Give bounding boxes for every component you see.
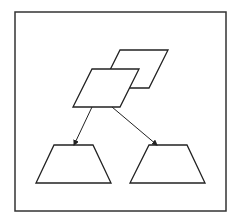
trapezoid-right — [130, 145, 205, 183]
arrow-to-right — [112, 107, 157, 145]
diagram-canvas — [0, 0, 235, 222]
trapezoid-left — [36, 145, 111, 183]
arrow-to-left — [74, 107, 92, 145]
parallelogram-front — [73, 69, 139, 107]
